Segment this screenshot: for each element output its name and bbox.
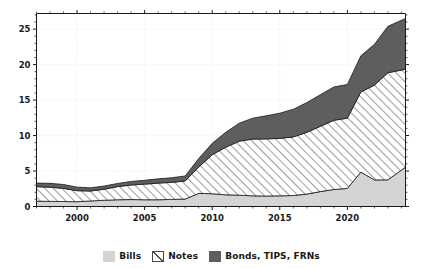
legend-entry-bonds-tips-frns[interactable]: Bonds, TIPS, FRNs: [209, 251, 320, 262]
svg-text:0: 0: [25, 202, 31, 212]
svg-text:25: 25: [19, 24, 31, 34]
svg-text:2015: 2015: [268, 213, 292, 223]
legend-entry-bills[interactable]: Bills: [103, 251, 141, 262]
svg-text:20: 20: [19, 60, 31, 70]
legend-label-bills: Bills: [119, 252, 141, 261]
legend-label-bonds-tips-frns: Bonds, TIPS, FRNs: [225, 252, 320, 261]
legend-entry-notes[interactable]: Notes: [152, 251, 198, 262]
legend-label-notes: Notes: [168, 252, 198, 261]
svg-text:2010: 2010: [200, 213, 224, 223]
svg-text:15: 15: [19, 95, 31, 105]
chart-figure: 051015202520002005201020152020 Bills Not…: [0, 0, 423, 268]
chart-legend: Bills Notes Bonds, TIPS, FRNs: [0, 251, 423, 262]
svg-text:2000: 2000: [65, 213, 89, 223]
stacked-area-chart: 051015202520002005201020152020: [0, 0, 423, 268]
solid-dark-gray-swatch: [209, 251, 221, 262]
svg-text:10: 10: [19, 131, 31, 141]
svg-text:2005: 2005: [133, 213, 157, 223]
diagonal-hatch-swatch: [152, 251, 164, 262]
solid-light-gray-swatch: [103, 251, 115, 262]
svg-text:2020: 2020: [336, 213, 360, 223]
svg-text:5: 5: [25, 166, 31, 176]
